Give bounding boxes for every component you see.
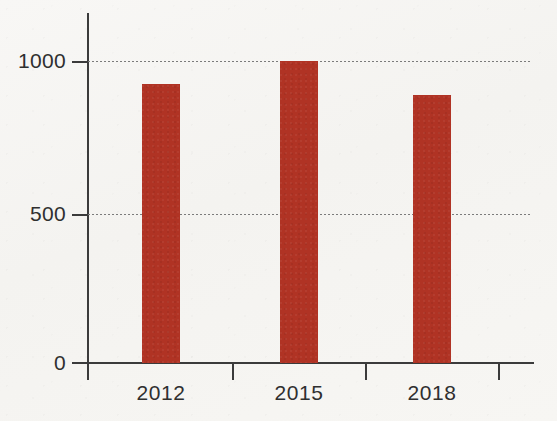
bar-chart: 1000 500 0 2012 2015 2018 — [0, 0, 557, 421]
x-tick-mark-3 — [498, 364, 500, 380]
x-tick-label-2012: 2012 — [101, 382, 221, 403]
x-tick-mark-1 — [232, 364, 234, 380]
bars-layer — [0, 13, 557, 363]
x-tick-mark-2 — [365, 364, 367, 380]
x-tick-mark-0 — [87, 364, 89, 380]
bar-2015 — [280, 61, 318, 363]
bar-2018 — [413, 95, 451, 363]
x-tick-label-2015: 2015 — [239, 382, 359, 403]
x-tick-label-2018: 2018 — [372, 382, 492, 403]
bar-2012 — [142, 84, 180, 363]
